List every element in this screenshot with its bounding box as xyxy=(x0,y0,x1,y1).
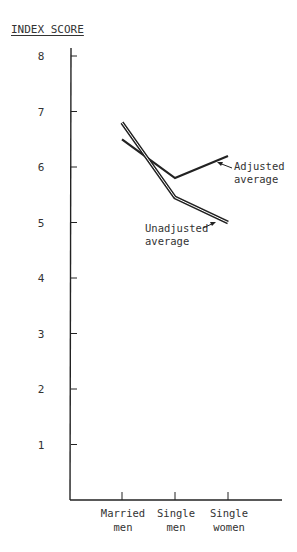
y-tick-label: 1 xyxy=(38,439,45,452)
x-tick-label: men xyxy=(114,521,133,533)
y-axis-title: INDEX SCORE xyxy=(11,23,84,36)
y-axis xyxy=(70,48,71,500)
y-tick-label: 6 xyxy=(38,161,45,174)
adjusted-average-label: average xyxy=(234,173,278,185)
series-unadjusted-line xyxy=(122,123,228,223)
adjusted-average-label: Adjusted xyxy=(234,160,285,172)
series-unadjusted-line-inner xyxy=(122,123,228,223)
y-tick-label: 7 xyxy=(38,106,45,119)
x-tick-label: Single xyxy=(157,507,195,519)
y-tick-label: 2 xyxy=(38,383,45,396)
line-chart: INDEX SCORE 12345678MarriedmenSinglemenS… xyxy=(0,0,297,552)
x-tick-label: women xyxy=(213,521,245,533)
plot-area: 12345678MarriedmenSinglemenSinglewomenAd… xyxy=(0,0,297,552)
y-tick-label: 3 xyxy=(38,328,45,341)
y-tick-label: 8 xyxy=(38,50,45,63)
unadjusted-average-label: Unadjusted xyxy=(145,222,208,234)
y-tick-label: 4 xyxy=(38,272,45,285)
unadjusted-average-label: average xyxy=(145,235,189,247)
y-tick-label: 5 xyxy=(38,217,45,230)
x-tick-label: men xyxy=(167,521,186,533)
x-tick-label: Single xyxy=(210,507,248,519)
x-tick-label: Married xyxy=(101,507,145,519)
